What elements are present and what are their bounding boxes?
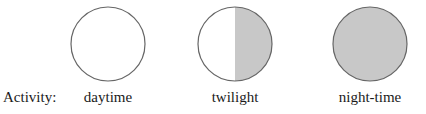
nighttime-label: night-time bbox=[339, 88, 402, 106]
twilight-label: twilight bbox=[212, 88, 259, 106]
activity-row-label: Activity: bbox=[3, 88, 56, 106]
daytime-circle-icon bbox=[71, 7, 145, 81]
twilight-circle-icon bbox=[198, 7, 272, 81]
daytime-label: daytime bbox=[84, 88, 132, 106]
nighttime-circle-icon bbox=[333, 7, 407, 81]
